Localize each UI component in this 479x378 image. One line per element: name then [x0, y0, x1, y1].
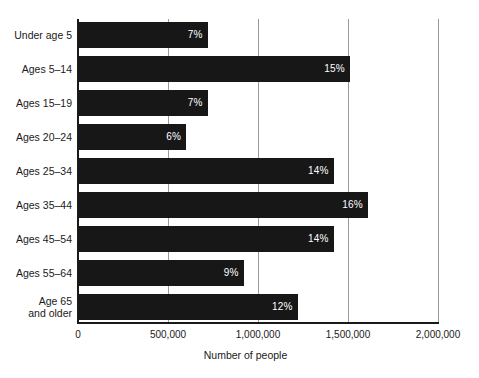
- bar-value-label: 16%: [342, 200, 368, 210]
- plot-area: 7%15%7%6%14%16%14%9%12%: [78, 19, 438, 322]
- bar-value-label: 14%: [308, 166, 334, 176]
- category-label: Ages 20–24: [0, 131, 72, 143]
- bar-value-label: 15%: [324, 64, 350, 74]
- bar-chart: 7%15%7%6%14%16%14%9%12% Under age 5Ages …: [0, 0, 479, 378]
- category-label: Under age 5: [0, 29, 72, 41]
- category-label: Ages 55–64: [0, 267, 72, 279]
- bar: 14%: [78, 158, 334, 184]
- x-axis-line: [77, 322, 439, 324]
- y-axis-line: [77, 19, 79, 323]
- bar-value-label: 9%: [224, 268, 244, 278]
- x-tick-label: 1,000,000: [236, 329, 281, 340]
- category-label: Ages 25–34: [0, 165, 72, 177]
- bar: 16%: [78, 192, 368, 218]
- bar-value-label: 7%: [188, 98, 208, 108]
- x-tick-label: 2,000,000: [416, 329, 461, 340]
- x-axis-title: Number of people: [0, 349, 479, 361]
- category-label: Ages 35–44: [0, 199, 72, 211]
- bar-value-label: 6%: [166, 132, 186, 142]
- category-label: Ages 5–14: [0, 63, 72, 75]
- category-label: Age 65 and older: [0, 295, 72, 319]
- x-tick-label: 0: [75, 329, 81, 340]
- bar: 7%: [78, 22, 208, 48]
- bar: 7%: [78, 90, 208, 116]
- bar: 6%: [78, 124, 186, 150]
- bar-value-label: 7%: [188, 30, 208, 40]
- x-axis-title-text: Number of people: [204, 349, 287, 361]
- bar-value-label: 14%: [308, 234, 334, 244]
- bar: 14%: [78, 226, 334, 252]
- bar: 15%: [78, 56, 350, 82]
- y-axis-category-labels: Under age 5Ages 5–14Ages 15–19Ages 20–24…: [0, 19, 72, 322]
- x-tick-label: 1,500,000: [326, 329, 371, 340]
- bar: 9%: [78, 260, 244, 286]
- category-label: Ages 15–19: [0, 97, 72, 109]
- category-label: Ages 45–54: [0, 233, 72, 245]
- bar-value-label: 12%: [272, 302, 298, 312]
- bar: 12%: [78, 294, 298, 320]
- x-tick-label: 500,000: [150, 329, 186, 340]
- gridline-2000000: [438, 19, 439, 322]
